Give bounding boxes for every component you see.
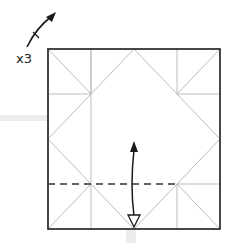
crease-diagonal-tl <box>48 49 91 94</box>
crease-diagonal-br <box>177 184 220 229</box>
crease-diagonal-tr <box>177 49 220 94</box>
rotate-arrow-icon <box>27 12 56 47</box>
crease-lines <box>48 49 220 229</box>
crease-diagonal-bl <box>48 184 91 229</box>
origami-diagram <box>0 0 230 243</box>
